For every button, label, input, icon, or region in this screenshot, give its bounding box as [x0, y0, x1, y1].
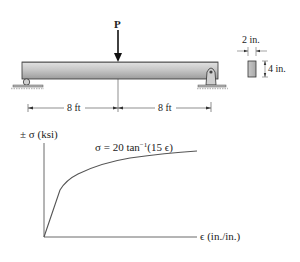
span-left-label: 8 ft [66, 103, 82, 113]
stress-strain-graph [44, 143, 197, 237]
load-arrow-icon [114, 30, 122, 62]
section-height-label: 4 in. [268, 64, 286, 74]
beam-problem-figure: P 8 ft 8 ft 2 in. 4 in. ± σ (ksi) σ = 20… [0, 0, 300, 262]
y-axis-label: ± σ (ksi) [20, 129, 58, 140]
equation-suffix: (15 ϵ) [147, 141, 173, 153]
section-width-label: 2 in. [242, 35, 260, 45]
load-label: P [114, 19, 121, 30]
equation-label: σ = 20 tan−1(15 ϵ) [95, 142, 173, 153]
span-right-label: 8 ft [157, 103, 173, 113]
span-dimension [28, 102, 211, 112]
roller-support-icon [11, 79, 44, 89]
x-axis-label: ϵ (in./in.) [200, 231, 240, 242]
equation-prefix: σ = 20 tan [95, 141, 140, 153]
cross-section [237, 47, 268, 77]
beam [22, 62, 218, 79]
stress-strain-curve [44, 151, 197, 237]
